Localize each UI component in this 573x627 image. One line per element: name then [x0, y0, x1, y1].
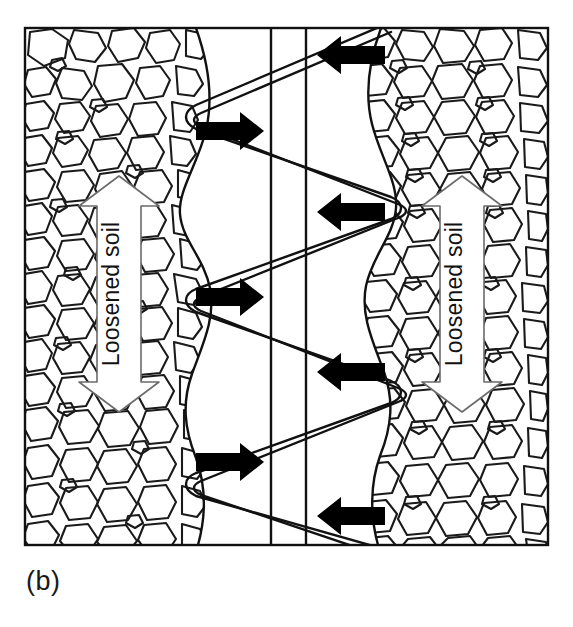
force-arrow-left-3	[196, 443, 264, 481]
central-channel	[271, 28, 306, 545]
right-soil-label: Loosened soil	[441, 222, 467, 367]
force-arrows-left	[196, 112, 264, 481]
figure-caption: (b)	[26, 568, 61, 595]
soil-loosening-diagram: Loosened soil Loosened soil	[0, 0, 573, 627]
left-soil-label: Loosened soil	[98, 222, 124, 367]
figure-container: Loosened soil Loosened soil (b)	[0, 0, 573, 627]
